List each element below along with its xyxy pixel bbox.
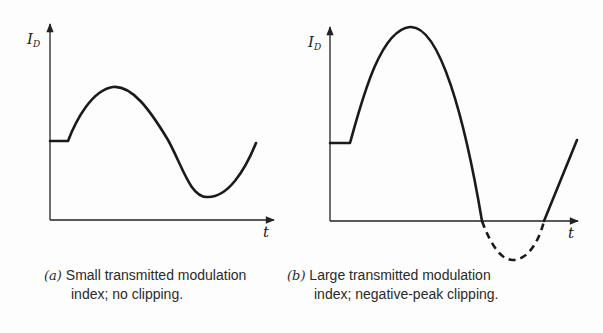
- x-axis-label-b: t: [568, 224, 575, 242]
- panel-a: ID t: [26, 24, 274, 241]
- figure: ID t ID t (a) Small transmitted modulati…: [0, 0, 603, 333]
- caption-b: (b) Large transmitted modulation index; …: [287, 266, 498, 303]
- caption-a-line1: Small transmitted modulation: [66, 267, 247, 283]
- caption-tag-a: (a): [44, 268, 62, 283]
- caption-b-line1: Large transmitted modulation: [309, 267, 490, 283]
- caption-b-line2: index; negative-peak clipping.: [287, 285, 498, 303]
- clipped-negative-peak-b: [482, 221, 544, 260]
- caption-a-line2: index; no clipping.: [44, 285, 246, 303]
- y-axis-label-b: ID: [307, 33, 321, 52]
- panel-b: ID t: [307, 27, 578, 260]
- x-axis-label-a: t: [263, 223, 270, 241]
- caption-a: (a) Small transmitted modulation index; …: [44, 266, 246, 303]
- drain-current-waveform-b-rise: [544, 140, 577, 221]
- caption-tag-b: (b): [287, 268, 305, 283]
- drain-current-waveform-a: [50, 87, 256, 197]
- drain-current-waveform-b: [330, 27, 482, 221]
- y-axis-label-a: ID: [26, 30, 40, 49]
